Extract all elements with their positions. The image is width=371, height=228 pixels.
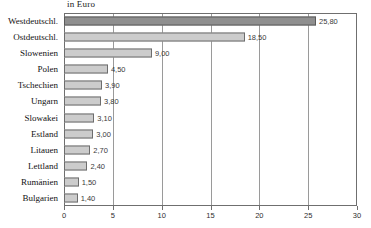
- bar-row: 3,10: [64, 109, 357, 125]
- bar: [64, 81, 102, 90]
- bar-value-label: 1,50: [79, 177, 97, 186]
- bar-value-label: 3,00: [93, 129, 111, 138]
- bar-row: 1,40: [64, 190, 357, 206]
- category-label: Polen: [0, 61, 61, 77]
- axis-tick: [357, 206, 358, 210]
- axis-tick: [211, 206, 212, 210]
- bar-row: 25,80: [64, 13, 357, 29]
- bar: [64, 177, 79, 186]
- bar-value-label: 3,90: [102, 81, 120, 90]
- bar-value-label: 4,50: [108, 65, 126, 74]
- bar: [64, 65, 108, 74]
- bar-value-label: 2,70: [90, 145, 108, 154]
- category-axis: Westdeutschl.Ostdeutschl.SlowenienPolenT…: [0, 13, 61, 206]
- category-label: Slowakei: [0, 109, 61, 125]
- category-label: Lettland: [0, 158, 61, 174]
- bar: [64, 97, 101, 106]
- value-axis: 051015202530: [64, 206, 357, 226]
- bar-row: 1,50: [64, 174, 357, 190]
- bar-value-label: 2,40: [87, 161, 105, 170]
- bar: [64, 145, 90, 154]
- category-label: Estland: [0, 126, 61, 142]
- bar-value-label: 3,10: [94, 113, 112, 122]
- chart-title: in Euro: [67, 0, 95, 9]
- category-label: Ostdeutschl.: [0, 29, 61, 45]
- axis-tick-label: 5: [111, 211, 115, 220]
- bar: [64, 161, 87, 170]
- bar-row: 2,40: [64, 158, 357, 174]
- bar-chart: in Euro Westdeutschl.Ostdeutschl.Sloweni…: [0, 0, 371, 228]
- axis-tick-label: 30: [353, 211, 361, 220]
- bar-value-label: 9,00: [152, 49, 170, 58]
- bar: [64, 113, 94, 122]
- axis-tick: [259, 206, 260, 210]
- axis-tick-label: 15: [206, 211, 214, 220]
- axis-tick-label: 10: [157, 211, 165, 220]
- bar: [64, 17, 316, 26]
- category-label: Litauen: [0, 142, 61, 158]
- bar-row: 9,00: [64, 45, 357, 61]
- bar-row: 3,00: [64, 126, 357, 142]
- category-label: Bulgarien: [0, 190, 61, 206]
- axis-tick-label: 0: [62, 211, 66, 220]
- category-label: Tschechien: [0, 77, 61, 93]
- axis-tick: [64, 206, 65, 210]
- bar-value-label: 25,80: [316, 17, 338, 26]
- category-label: Rumänien: [0, 174, 61, 190]
- bar: [64, 33, 245, 42]
- bars-container: 25,8018,509,004,503,903,803,103,002,702,…: [64, 13, 357, 206]
- axis-tick: [308, 206, 309, 210]
- axis-tick: [162, 206, 163, 210]
- bar-row: 3,90: [64, 77, 357, 93]
- category-label: Ungarn: [0, 93, 61, 109]
- bar: [64, 129, 93, 138]
- axis-tick: [113, 206, 114, 210]
- category-label: Slowenien: [0, 45, 61, 61]
- axis-tick-label: 25: [304, 211, 312, 220]
- bar-value-label: 18,50: [245, 33, 267, 42]
- bar-row: 18,50: [64, 29, 357, 45]
- bar-row: 2,70: [64, 142, 357, 158]
- axis-tick-label: 20: [255, 211, 263, 220]
- category-label: Westdeutschl.: [0, 13, 61, 29]
- bar-row: 4,50: [64, 61, 357, 77]
- bar-value-label: 1,40: [78, 193, 96, 202]
- bar: [64, 49, 152, 58]
- bar-value-label: 3,80: [101, 97, 119, 106]
- bar-row: 3,80: [64, 93, 357, 109]
- bar: [64, 193, 78, 202]
